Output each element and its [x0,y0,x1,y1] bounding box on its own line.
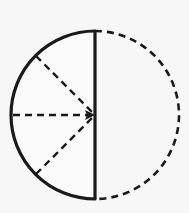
geometry-figure: Circle with solid left semicircle and da… [0,0,189,213]
circle-diagram-svg [0,0,189,213]
